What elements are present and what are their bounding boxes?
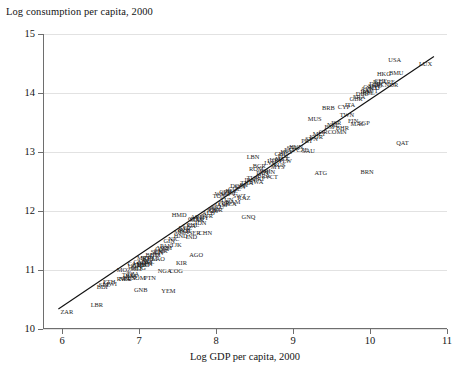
data-point-label: GNQ [242,214,256,220]
data-point-label: QAT [396,139,408,145]
x-tick-mark [216,329,217,334]
data-point-label: LBN [247,154,260,160]
x-tick-mark [293,329,294,334]
y-tick-label: 11 [25,265,35,276]
y-tick-label: 15 [25,29,36,40]
data-point-label: GNB [134,287,148,293]
x-tick-label: 7 [137,336,142,347]
data-point-label: AGO [189,252,203,258]
x-tick-mark [139,329,140,334]
data-point-label: ATG [315,170,327,176]
data-point-label: ZAR [60,309,73,315]
y-tick-label: 14 [25,88,36,99]
data-point-label: BFA [126,273,138,279]
data-point-label: KAZ [237,195,250,201]
data-point-label: BMU [389,70,404,76]
gridline-y [43,329,447,330]
x-axis-title: Log GDP per capita, 2000 [43,351,447,362]
data-point-label: BRB [322,105,335,111]
y-axis-title: Log consumption per capita, 2000 [6,6,153,17]
data-point-label: ZAF [253,176,265,182]
x-tick-label: 11 [442,336,452,347]
data-point-label: NOR [385,82,399,88]
data-point-label: UKR [209,207,223,213]
scatter-chart: Log consumption per capita, 2000 1011121… [0,0,468,383]
data-point-label: SAU [302,148,315,154]
x-tick-label: 6 [60,336,65,347]
data-point-label: BRN [360,169,373,175]
data-point-label: LBR [91,302,103,308]
y-tick-label: 12 [25,206,36,217]
data-point-label: MYS [271,164,285,170]
y-tick-label: 10 [25,324,36,335]
data-point-label: YEM [161,288,175,294]
data-point-label: COG [169,267,183,273]
x-tick-mark [447,329,448,334]
data-point-label: PTN [144,274,156,280]
data-point-label: LUX [419,60,432,66]
plot-area: 101112131415 67891011 ZARLBRGNBYEMBDIETH… [43,34,447,329]
data-point-label: KIR [176,260,187,266]
data-point-label: CHN [199,230,213,236]
data-point-label: FIN [348,118,358,124]
data-point-label: USA [388,57,401,63]
data-point-label: SGP [358,119,370,125]
x-tick-label: 8 [214,336,219,347]
x-tick-label: 9 [290,336,295,347]
x-tick-label: 10 [365,336,376,347]
x-tick-mark [370,329,371,334]
data-point-label: CAF [128,261,140,267]
data-point-label: MUS [308,116,322,122]
data-point-label: KGZ [179,224,192,230]
y-tick-mark [38,329,43,330]
x-tick-mark [62,329,63,334]
data-point-label: MWI [103,281,117,287]
data-point-label: HMD [172,211,187,217]
data-point-label: BHR [336,125,349,131]
y-tick-label: 13 [25,147,36,158]
data-point-label: ITA [345,102,355,108]
data-point-label: DZA [223,201,236,207]
